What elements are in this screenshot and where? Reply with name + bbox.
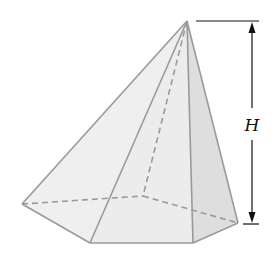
pyramid-diagram: H <box>0 0 277 257</box>
height-label: H <box>244 115 261 135</box>
arrow-down-icon <box>249 212 256 223</box>
arrow-up-icon <box>249 22 256 33</box>
